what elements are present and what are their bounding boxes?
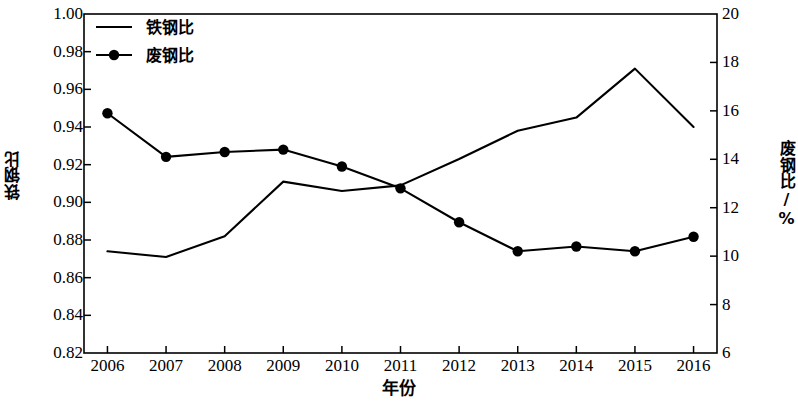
legend-item-label-1: 铁钢比 (146, 18, 194, 37)
legend-item-label-2: 废钢比 (146, 46, 194, 65)
plot-area: 铁钢比废钢比 (0, 0, 798, 408)
chart-figure: 铁钢比 废钢比/% 年份 0.820.840.860.880.900.920.9… (0, 0, 798, 408)
axis-ticks (84, 52, 717, 353)
chart-legend: 铁钢比废钢比 (96, 18, 194, 65)
data-series (102, 69, 699, 257)
